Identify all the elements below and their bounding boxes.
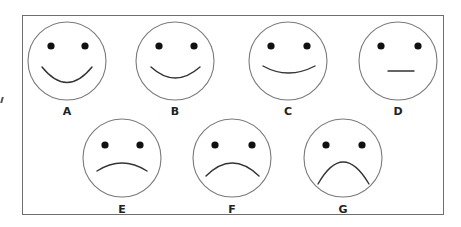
face-outline (83, 119, 161, 197)
face-outline (359, 22, 437, 100)
face-outline (28, 22, 106, 100)
right-eye (136, 141, 143, 148)
face-d: D (359, 22, 437, 118)
left-eye (211, 141, 218, 148)
right-eye (248, 141, 255, 148)
face-c: C (249, 22, 327, 118)
right-eye (414, 42, 421, 49)
right-eye (81, 42, 88, 49)
left-eye (322, 141, 329, 148)
face-label: G (338, 203, 347, 216)
left-eye (47, 42, 54, 49)
face-g: G (304, 119, 382, 216)
mouth-smile (151, 67, 200, 78)
faces-diagram: A B C D E F (0, 0, 461, 227)
face-b: B (136, 22, 214, 118)
face-label: D (393, 105, 402, 118)
mouth-big-smile (42, 67, 92, 83)
mouth-slight-smile (263, 66, 315, 73)
face-label: A (63, 105, 72, 118)
face-e: E (83, 119, 161, 216)
left-eye (377, 42, 384, 49)
face-outline (136, 22, 214, 100)
face-label: F (228, 203, 236, 216)
left-eye (267, 42, 274, 49)
right-eye (358, 141, 365, 148)
right-eye (303, 42, 310, 49)
face-label: C (284, 105, 292, 118)
mouth-big-frown (318, 162, 369, 184)
face-outline (193, 119, 271, 197)
face-label: E (118, 203, 126, 216)
left-eye (155, 42, 162, 49)
mouth-frown (206, 163, 259, 176)
face-outline (249, 22, 327, 100)
face-outline (304, 119, 382, 197)
mouth-slight-frown (97, 163, 147, 171)
face-f: F (193, 119, 271, 216)
left-eye (101, 141, 108, 148)
right-eye (190, 42, 197, 49)
face-label: B (171, 105, 179, 118)
face-a: A (28, 22, 106, 118)
